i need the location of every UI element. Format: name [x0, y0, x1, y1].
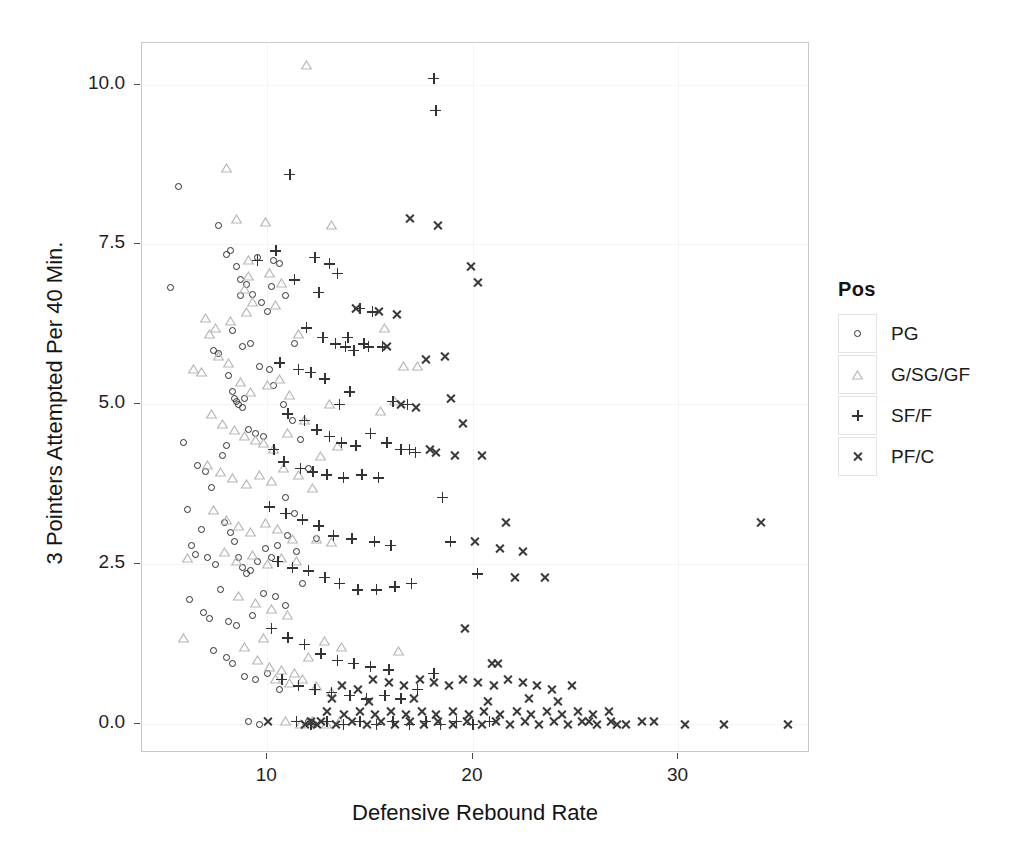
data-point-pf-c: [459, 623, 470, 634]
data-point-sf-f: [324, 258, 335, 269]
data-point-pf-c: [782, 719, 793, 730]
data-point-sf-f: [365, 428, 376, 439]
data-point-sf-f: [309, 684, 320, 695]
data-point-pg: [219, 452, 226, 459]
data-point-pg: [231, 538, 238, 545]
data-point-g-sg-gf: [235, 377, 246, 387]
data-point-g-sg-gf: [266, 476, 277, 486]
gridline-vertical: [473, 43, 474, 751]
data-point-g-sg-gf: [243, 271, 254, 281]
data-point-pf-c: [478, 706, 489, 717]
data-point-pg: [188, 542, 195, 549]
data-point-sf-f: [406, 578, 417, 589]
legend-item-pg[interactable]: PG: [838, 313, 970, 354]
data-point-sf-f: [276, 674, 287, 685]
data-point-g-sg-gf: [227, 473, 238, 483]
data-point-sf-f: [284, 169, 295, 180]
data-point-sf-f: [282, 408, 293, 419]
data-point-sf-f: [324, 431, 335, 442]
scatter-plot-figure: 3 Pointers Attempted Per 40 Min. Defensi…: [0, 0, 1030, 857]
data-point-g-sg-gf: [270, 300, 281, 310]
data-point-pf-c: [414, 674, 425, 685]
data-point-pf-c: [523, 693, 534, 704]
data-point-pf-c: [566, 680, 577, 691]
data-point-pf-c: [500, 517, 511, 528]
data-point-sf-f: [369, 536, 380, 547]
data-point-pf-c: [465, 261, 476, 272]
data-point-pf-c: [311, 719, 322, 730]
data-point-g-sg-gf: [393, 646, 404, 656]
data-point-pf-c: [502, 674, 513, 685]
data-point-g-sg-gf: [247, 550, 258, 560]
data-point-sf-f: [344, 386, 355, 397]
data-point-pf-c: [504, 719, 515, 730]
data-point-pg: [260, 590, 267, 597]
data-point-pg: [256, 363, 263, 370]
data-point-g-sg-gf: [254, 470, 265, 480]
data-point-pg: [280, 401, 287, 408]
y-tick-label: 10.0: [41, 72, 125, 94]
data-point-pg: [225, 618, 232, 625]
data-point-g-sg-gf: [223, 358, 234, 368]
data-point-g-sg-gf: [398, 361, 409, 371]
data-point-pf-c: [447, 706, 458, 717]
data-point-g-sg-gf: [307, 483, 318, 493]
data-point-sf-f: [272, 556, 283, 567]
data-point-pg: [194, 462, 201, 469]
data-point-pg: [245, 718, 252, 725]
data-point-pg: [293, 548, 300, 555]
data-point-sf-f: [356, 469, 367, 480]
data-point-pf-c: [494, 709, 505, 720]
data-point-pf-c: [476, 719, 487, 730]
gridline-horizontal: [142, 85, 808, 86]
data-point-g-sg-gf: [258, 633, 269, 643]
data-point-pf-c: [533, 719, 544, 730]
data-point-pf-c: [457, 674, 468, 685]
data-point-pf-c: [472, 277, 483, 288]
data-point-sf-f: [389, 581, 400, 592]
data-point-pg: [282, 602, 289, 609]
data-point-pf-c: [400, 709, 411, 720]
legend-item-sf-f[interactable]: SF/F: [838, 395, 970, 436]
data-point-sf-f: [348, 658, 359, 669]
legend-item-g-sg-gf[interactable]: G/SG/GF: [838, 354, 970, 395]
data-point-pf-c: [541, 706, 552, 717]
legend-label: G/SG/GF: [891, 364, 970, 386]
legend-key-circle-icon: [838, 314, 877, 353]
data-point-pf-c: [410, 402, 421, 413]
data-point-pf-c: [352, 684, 363, 695]
data-point-pf-c: [389, 719, 400, 730]
data-point-g-sg-gf: [221, 163, 232, 173]
data-point-pg: [268, 283, 275, 290]
data-point-pf-c: [562, 719, 573, 730]
data-point-g-sg-gf: [276, 278, 287, 288]
data-point-pf-c: [463, 709, 474, 720]
data-point-pf-c: [404, 213, 415, 224]
data-point-g-sg-gf: [260, 217, 271, 227]
data-point-pg: [252, 676, 259, 683]
data-point-pf-c: [494, 543, 505, 554]
data-point-pf-c: [648, 716, 659, 727]
x-tick-label: 20: [432, 764, 512, 786]
data-point-sf-f: [289, 274, 300, 285]
data-point-pf-c: [539, 572, 550, 583]
plot-panel: [141, 42, 809, 752]
data-point-g-sg-gf: [241, 479, 252, 489]
data-point-g-sg-gf: [272, 524, 283, 534]
data-point-sf-f: [395, 693, 406, 704]
data-point-pg: [272, 593, 279, 600]
data-point-g-sg-gf: [311, 534, 322, 544]
legend-item-pf-c[interactable]: PF/C: [838, 436, 970, 477]
data-point-sf-f: [430, 105, 441, 116]
data-point-sf-f: [373, 472, 384, 483]
data-point-pf-c: [492, 658, 503, 669]
data-point-pf-c: [330, 719, 341, 730]
data-point-pf-c: [469, 536, 480, 547]
data-point-g-sg-gf: [225, 316, 236, 326]
data-point-pf-c: [679, 719, 690, 730]
data-point-pg: [184, 506, 191, 513]
data-point-pf-c: [367, 674, 378, 685]
data-point-sf-f: [299, 415, 310, 426]
data-point-sf-f: [313, 287, 324, 298]
data-point-pf-c: [583, 716, 594, 727]
